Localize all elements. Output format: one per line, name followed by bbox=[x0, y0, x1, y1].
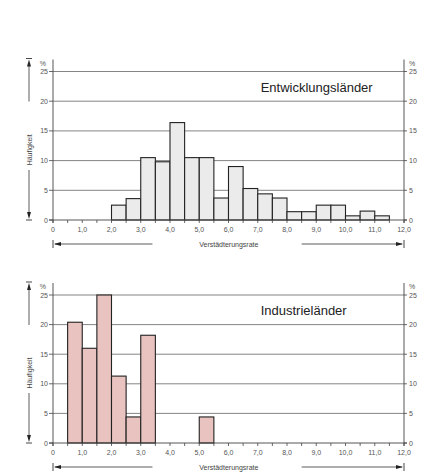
x-tick-label: 12,0 bbox=[397, 449, 411, 456]
y-tick-label-right: 15 bbox=[409, 351, 417, 358]
x-tick-label: 4,0 bbox=[165, 449, 175, 456]
y-tick-label-left: 0 bbox=[44, 217, 48, 224]
y-tick-label-left: 10 bbox=[40, 157, 48, 164]
x-tick-label: 6,0 bbox=[224, 226, 234, 233]
x-tick-label: 10,0 bbox=[339, 226, 353, 233]
y-tick-label-left: 5 bbox=[44, 187, 48, 194]
histogram-bar bbox=[272, 198, 287, 220]
histogram-bar bbox=[82, 348, 97, 443]
arrow-left-icon bbox=[54, 465, 61, 469]
y-tick-label-right: 20 bbox=[409, 98, 417, 105]
x-tick-label: 2,0 bbox=[107, 449, 117, 456]
histogram-bar bbox=[141, 335, 156, 443]
histogram-bar bbox=[199, 417, 214, 443]
y-unit-right: % bbox=[409, 60, 415, 67]
histogram-bar bbox=[112, 205, 127, 220]
y-tick-label-right: 20 bbox=[409, 321, 417, 328]
arrow-down-icon bbox=[27, 435, 31, 442]
y-tick-label-left: 15 bbox=[40, 127, 48, 134]
histogram-bar bbox=[346, 216, 361, 220]
y-tick-label-left: 20 bbox=[40, 321, 48, 328]
x-tick-label: 7,0 bbox=[253, 449, 263, 456]
histogram-bar bbox=[258, 194, 273, 220]
histogram-bar bbox=[302, 212, 317, 220]
x-tick-label: 7,0 bbox=[253, 226, 263, 233]
x-tick-label: 6,0 bbox=[224, 449, 234, 456]
histogram-bar bbox=[331, 205, 346, 220]
x-tick-label: 5,0 bbox=[194, 226, 204, 233]
y-axis-label: Häufigkeit bbox=[26, 134, 34, 165]
y-tick-label-left: 25 bbox=[40, 292, 48, 299]
x-tick-label: 10,0 bbox=[339, 449, 353, 456]
histogram-bar bbox=[68, 322, 83, 443]
histogram-bar bbox=[316, 205, 331, 220]
y-tick-label-right: 15 bbox=[409, 127, 417, 134]
histogram-bar bbox=[170, 123, 185, 220]
histogram-bar bbox=[243, 189, 258, 220]
x-tick-label: 0 bbox=[51, 226, 55, 233]
y-tick-label-left: 10 bbox=[40, 380, 48, 387]
histogram-bar bbox=[199, 158, 214, 220]
x-tick-label: 3,0 bbox=[136, 449, 146, 456]
y-tick-label-right: 5 bbox=[409, 187, 413, 194]
histogram-bar bbox=[126, 417, 141, 443]
chart-entwicklungslaender: 01,02,03,04,05,06,07,08,09,010,011,012,0… bbox=[26, 59, 417, 250]
y-tick-label-right: 10 bbox=[409, 157, 417, 164]
arrow-down-icon bbox=[27, 212, 31, 219]
arrow-right-icon bbox=[396, 242, 403, 246]
x-tick-label: 11,0 bbox=[368, 449, 381, 456]
chart-industrielaender: 01,02,03,04,05,06,07,08,09,010,011,012,0… bbox=[26, 282, 417, 472]
histogram-bar bbox=[112, 376, 127, 443]
y-tick-label-right: 25 bbox=[409, 292, 417, 299]
y-unit-left: % bbox=[40, 283, 46, 290]
x-tick-label: 1,0 bbox=[77, 226, 87, 233]
y-unit-left: % bbox=[40, 60, 46, 67]
y-tick-label-right: 10 bbox=[409, 380, 417, 387]
x-tick-label: 1,0 bbox=[77, 449, 87, 456]
y-axis-label: Häufigkeit bbox=[26, 357, 34, 388]
chart-title: Industrieländer bbox=[261, 303, 348, 318]
histogram-bar bbox=[214, 198, 229, 220]
x-axis-label: Verstädterungsrate bbox=[199, 241, 258, 249]
y-unit-right: % bbox=[409, 283, 415, 290]
y-tick-label-left: 15 bbox=[40, 351, 48, 358]
histogram-bar bbox=[126, 199, 141, 220]
x-tick-label: 4,0 bbox=[165, 226, 175, 233]
y-tick-label-left: 5 bbox=[44, 410, 48, 417]
histogram-bar bbox=[360, 211, 375, 220]
y-tick-label-left: 20 bbox=[40, 98, 48, 105]
x-tick-label: 3,0 bbox=[136, 226, 146, 233]
x-tick-label: 9,0 bbox=[311, 226, 321, 233]
y-tick-label-right: 25 bbox=[409, 68, 417, 75]
histogram-bar bbox=[229, 167, 244, 220]
y-tick-label-left: 25 bbox=[40, 68, 48, 75]
x-tick-label: 8,0 bbox=[282, 226, 292, 233]
x-axis-label: Verstädterungsrate bbox=[199, 464, 258, 472]
histogram-bar bbox=[141, 158, 156, 220]
x-tick-label: 9,0 bbox=[311, 449, 321, 456]
x-tick-label: 2,0 bbox=[107, 226, 117, 233]
histogram-bar bbox=[185, 158, 200, 220]
y-tick-label-right: 0 bbox=[409, 440, 413, 447]
x-tick-label: 11,0 bbox=[368, 226, 381, 233]
histogram-bar bbox=[155, 162, 170, 220]
chart-title: Entwicklungsländer bbox=[261, 80, 374, 95]
histogram-bar bbox=[375, 216, 390, 220]
x-tick-label: 8,0 bbox=[282, 449, 292, 456]
x-tick-label: 12,0 bbox=[397, 226, 411, 233]
histogram-bar bbox=[97, 295, 112, 443]
y-tick-label-right: 0 bbox=[409, 217, 413, 224]
x-tick-label: 5,0 bbox=[194, 449, 204, 456]
y-tick-label-left: 0 bbox=[44, 440, 48, 447]
arrow-right-icon bbox=[396, 465, 403, 469]
x-tick-label: 0 bbox=[51, 449, 55, 456]
histogram-bar bbox=[287, 212, 302, 220]
histogram-figure: 01,02,03,04,05,06,07,08,09,010,011,012,0… bbox=[0, 0, 438, 472]
y-tick-label-right: 5 bbox=[409, 410, 413, 417]
arrow-left-icon bbox=[54, 242, 61, 246]
